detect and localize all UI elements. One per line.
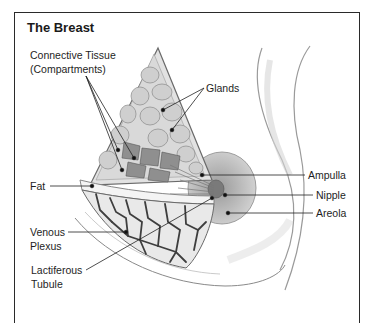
label-connective-tissue-line1: Connective Tissue	[30, 48, 116, 62]
label-areola: Areola	[316, 206, 346, 220]
label-glands: Glands	[206, 81, 239, 95]
label-venous-line2: Plexus	[30, 239, 65, 253]
label-fat: Fat	[30, 179, 45, 193]
label-connective-tissue-line2: (Compartments)	[30, 62, 116, 76]
label-ampulla: Ampulla	[308, 168, 346, 182]
label-lactiferous-tubule: Lactiferous Tubule	[31, 263, 82, 291]
label-lactiferous-line2: Tubule	[31, 277, 82, 291]
label-nipple: Nipple	[316, 188, 346, 202]
label-lactiferous-line1: Lactiferous	[31, 263, 82, 277]
label-venous-plexus: Venous Plexus	[30, 225, 65, 253]
label-venous-line1: Venous	[30, 225, 65, 239]
label-connective-tissue: Connective Tissue (Compartments)	[30, 48, 116, 76]
